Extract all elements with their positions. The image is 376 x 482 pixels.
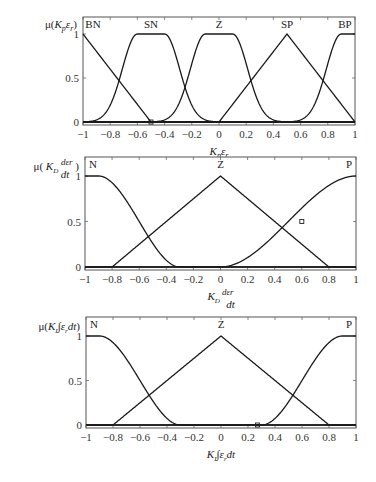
x-axis-label-denominator: dt — [226, 298, 236, 310]
x-tick-label: −0.6 — [130, 431, 150, 443]
x-tick-label: 0.8 — [321, 128, 335, 140]
x-tick-label: 0.2 — [239, 128, 253, 140]
mf-label-N: N — [89, 158, 97, 170]
x-tick-label: −0.4 — [157, 431, 177, 443]
mf-label-N: N — [90, 318, 98, 330]
y-tick-label: 0 — [76, 261, 82, 273]
mf-label-Z: Z — [218, 318, 225, 330]
x-tick-label: 0.6 — [294, 128, 308, 140]
x-tick-label: −0.8 — [103, 431, 123, 443]
x-tick-label: −1 — [79, 273, 91, 285]
x-tick-label: 0.4 — [267, 128, 281, 140]
x-tick-label: 0.4 — [268, 431, 282, 443]
y-axis-label: μ(Kpεr) — [45, 18, 77, 33]
x-tick-label: −1 — [80, 431, 92, 443]
y-tick-label: 0 — [77, 419, 83, 431]
x-tick-label: −0.2 — [184, 431, 204, 443]
x-tick-label: 0.6 — [295, 273, 309, 285]
x-tick-label: −0.2 — [183, 273, 203, 285]
x-tick-label: 0.2 — [241, 273, 255, 285]
plot-frame — [85, 157, 356, 270]
x-tick-label: 0 — [216, 128, 222, 140]
x-tick-label: −0.8 — [100, 128, 120, 140]
y-tick-label: 0.5 — [68, 375, 82, 387]
x-tick-label: −0.6 — [127, 128, 147, 140]
x-tick-label: −0.6 — [129, 273, 149, 285]
x-tick-label: 0.6 — [295, 431, 309, 443]
membership-function-figure: −1−0.8−0.6−0.4−0.200.20.40.60.8100.51BNS… — [0, 0, 376, 482]
mf-label-BP: BP — [338, 18, 351, 30]
x-tick-label: −0.4 — [155, 128, 175, 140]
mf-label-Z: Z — [216, 18, 223, 30]
y-axis-label-denominator: dt — [61, 168, 71, 180]
x-tick-label: 1 — [353, 431, 359, 443]
y-tick-label: 0.5 — [65, 72, 79, 84]
mf-label-P: P — [346, 318, 352, 330]
mf-label-BN: BN — [85, 18, 100, 30]
plot-2: −1−0.8−0.6−0.4−0.200.20.40.60.8100.51NZP… — [34, 157, 359, 310]
x-tick-label: −1 — [77, 128, 89, 140]
x-tick-label: −0.2 — [182, 128, 202, 140]
plot-3: −1−0.8−0.6−0.4−0.200.20.40.60.8100.51NZP… — [38, 317, 358, 463]
mf-label-P: P — [346, 158, 352, 170]
plot-1: −1−0.8−0.6−0.4−0.200.20.40.60.8100.51BNS… — [45, 17, 358, 160]
x-tick-label: −0.8 — [102, 273, 122, 285]
x-tick-label: 1 — [352, 128, 358, 140]
y-axis-label: μ( KD dεr ) — [34, 157, 80, 175]
x-tick-label: 0.2 — [241, 431, 255, 443]
x-tick-label: 0.4 — [268, 273, 282, 285]
x-tick-label: 0 — [218, 273, 224, 285]
plot-frame — [86, 317, 356, 428]
mf-label-Z: Z — [217, 158, 224, 170]
mf-label-SP: SP — [281, 18, 293, 30]
x-tick-label: −0.4 — [156, 273, 176, 285]
x-tick-label: 0.8 — [322, 431, 336, 443]
x-axis-label: KI∫εrdt — [206, 448, 236, 463]
x-tick-label: 1 — [353, 273, 359, 285]
y-tick-label: 0.5 — [67, 216, 81, 228]
x-tick-label: 0.8 — [322, 273, 336, 285]
y-axis-label: μ(KI∫εrdt) — [38, 320, 80, 335]
x-tick-label: 0 — [218, 431, 224, 443]
plot-frame — [83, 17, 355, 125]
y-tick-label: 0 — [74, 116, 80, 128]
mf-label-SN: SN — [144, 18, 158, 30]
